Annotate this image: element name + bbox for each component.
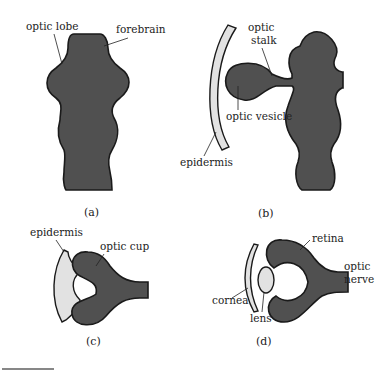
label-optic-stalk-line1: optic bbox=[248, 21, 275, 33]
label-lens: lens bbox=[250, 312, 272, 324]
panel-c: epidermis optic cup (c) bbox=[30, 226, 149, 348]
panel-b: optic stalk optic vesicle epidermis (b) bbox=[180, 21, 343, 220]
lens-shape bbox=[258, 267, 274, 293]
caption-d: (d) bbox=[256, 335, 272, 348]
label-optic-cup: optic cup bbox=[100, 240, 149, 252]
label-epidermis-c: epidermis bbox=[30, 226, 83, 238]
neural-tube-shape bbox=[47, 34, 129, 190]
caption-c: (c) bbox=[86, 335, 101, 348]
label-optic-nerve-line2: nerve bbox=[344, 273, 374, 285]
label-retina: retina bbox=[312, 232, 344, 244]
retina-shape bbox=[266, 240, 348, 322]
label-forebrain: forebrain bbox=[116, 23, 166, 35]
optic-cup-shape bbox=[72, 252, 148, 325]
label-optic-vesicle: optic vesicle bbox=[226, 110, 292, 122]
label-epidermis-b: epidermis bbox=[180, 156, 233, 168]
leader-epidermis-b bbox=[204, 132, 216, 156]
leader-optic-lobe bbox=[54, 34, 62, 64]
label-cornea: cornea bbox=[212, 294, 248, 306]
panel-d: retina optic nerve cornea lens (d) bbox=[212, 232, 374, 348]
leader-lens bbox=[262, 292, 264, 312]
eye-development-diagram: optic lobe forebrain (a) optic stalk opt… bbox=[0, 0, 388, 371]
caption-b: (b) bbox=[258, 207, 274, 220]
caption-a: (a) bbox=[84, 206, 99, 219]
label-optic-lobe: optic lobe bbox=[26, 20, 78, 32]
label-optic-nerve-line1: optic bbox=[344, 260, 371, 272]
label-optic-stalk-line2: stalk bbox=[251, 34, 277, 46]
panel-a: optic lobe forebrain (a) bbox=[26, 20, 166, 219]
leader-epidermis-c bbox=[56, 240, 64, 252]
